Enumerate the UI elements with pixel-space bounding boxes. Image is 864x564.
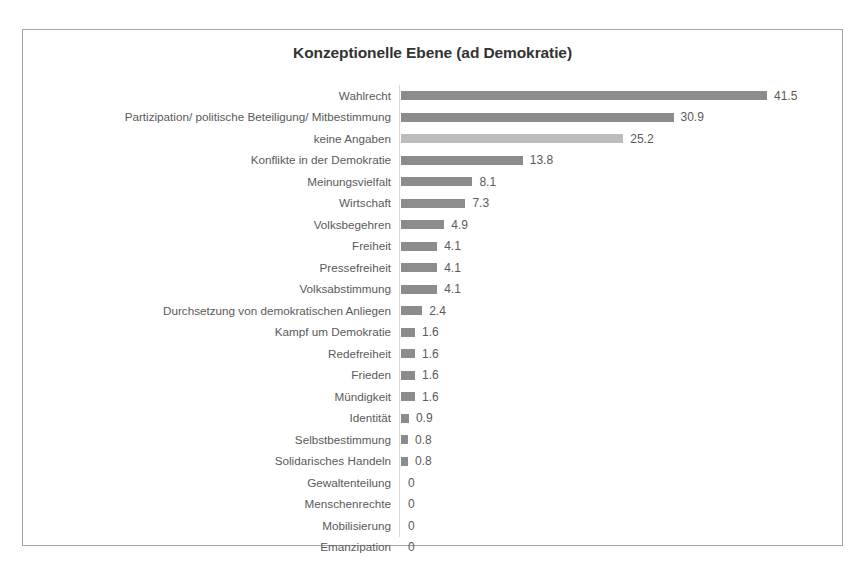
bar-value-label: 7.3: [472, 197, 489, 209]
bar-track: 41.5: [401, 85, 797, 107]
bar-track: 13.8: [401, 150, 553, 172]
category-label: Gewaltenteilung: [23, 477, 391, 489]
bar-track: 0: [401, 515, 415, 537]
bar: [401, 349, 415, 358]
bar-value-label: 4.1: [444, 240, 461, 252]
bar-track: 0: [401, 472, 415, 494]
bar-row: Redefreiheit1.6: [23, 343, 844, 365]
category-label: Menschenrechte: [23, 498, 391, 510]
bar-track: 30.9: [401, 107, 704, 129]
category-label: Solidarisches Handeln: [23, 455, 391, 467]
category-label: Frieden: [23, 369, 391, 381]
bar-track: 4.9: [401, 214, 468, 236]
bar-track: 0.8: [401, 451, 432, 473]
bar-track: 1.6: [401, 343, 439, 365]
category-label: Emanzipation: [23, 541, 391, 553]
bar: [401, 91, 767, 100]
bar-value-label: 2.4: [429, 305, 446, 317]
bar: [401, 435, 408, 444]
bar-value-label: 0.8: [415, 455, 432, 467]
category-label: Durchsetzung von demokratischen Anliegen: [23, 305, 391, 317]
category-label: Konflikte in der Demokratie: [23, 154, 391, 166]
bar-row: Identität0.9: [23, 408, 844, 430]
category-label: Selbstbestimmung: [23, 434, 391, 446]
category-label: Wirtschaft: [23, 197, 391, 209]
category-label: Freiheit: [23, 240, 391, 252]
bar-row: Partizipation/ politische Beteiligung/ M…: [23, 107, 844, 129]
bar: [401, 285, 437, 294]
bar-track: 8.1: [401, 171, 496, 193]
category-label: keine Angaben: [23, 133, 391, 145]
chart-title: Konzeptionelle Ebene (ad Demokratie): [23, 44, 842, 62]
category-label: Partizipation/ politische Beteiligung/ M…: [23, 111, 391, 123]
bar-row: Meinungsvielfalt8.1: [23, 171, 844, 193]
bar-track: 4.1: [401, 257, 461, 279]
bar-track: 4.1: [401, 236, 461, 258]
bar-track: 0.9: [401, 408, 433, 430]
bar: [401, 156, 523, 165]
category-label: Identität: [23, 412, 391, 424]
bar-row: Volksbegehren4.9: [23, 214, 844, 236]
bar-row: Pressefreiheit4.1: [23, 257, 844, 279]
bar-value-label: 25.2: [630, 133, 653, 145]
bar-row: Menschenrechte0: [23, 494, 844, 516]
category-label: Kampf um Demokratie: [23, 326, 391, 338]
bar-row: Wirtschaft7.3: [23, 193, 844, 215]
bar-value-label: 0: [408, 541, 415, 553]
bar-row: Wahlrecht41.5: [23, 85, 844, 107]
category-label: Wahlrecht: [23, 90, 391, 102]
chart-frame: Konzeptionelle Ebene (ad Demokratie) Wah…: [22, 29, 843, 546]
bar: [401, 177, 472, 186]
bar-value-label: 0: [408, 477, 415, 489]
bar-value-label: 30.9: [681, 111, 704, 123]
bar-row: Solidarisches Handeln0.8: [23, 451, 844, 473]
bar-value-label: 13.8: [530, 154, 553, 166]
bar-row: Frieden1.6: [23, 365, 844, 387]
bar-track: 2.4: [401, 300, 446, 322]
bar-value-label: 0: [408, 498, 415, 510]
bar: [401, 113, 674, 122]
bar-value-label: 8.1: [479, 176, 496, 188]
bar-value-label: 1.6: [422, 391, 439, 403]
bar-value-label: 4.1: [444, 262, 461, 274]
bar: [401, 392, 415, 401]
bar-track: 0.8: [401, 429, 432, 451]
bar: [401, 457, 408, 466]
bar-row: Selbstbestimmung0.8: [23, 429, 844, 451]
category-label: Mobilisierung: [23, 520, 391, 532]
bar: [401, 199, 465, 208]
bar-value-label: 0.9: [416, 412, 433, 424]
bar-row: Freiheit4.1: [23, 236, 844, 258]
bar-track: 4.1: [401, 279, 461, 301]
plot-area: Wahlrecht41.5Partizipation/ politische B…: [23, 85, 844, 543]
bar-track: 0: [401, 494, 415, 516]
bar-row: Mündigkeit1.6: [23, 386, 844, 408]
bar: [401, 414, 409, 423]
category-label: Volksbegehren: [23, 219, 391, 231]
bar-row: Kampf um Demokratie1.6: [23, 322, 844, 344]
category-label: Mündigkeit: [23, 391, 391, 403]
bar-track: 0: [401, 537, 415, 559]
bar: [401, 263, 437, 272]
bar: [401, 306, 422, 315]
bar: [401, 134, 623, 143]
category-label: Redefreiheit: [23, 348, 391, 360]
bar-value-label: 1.6: [422, 348, 439, 360]
bar-value-label: 41.5: [774, 90, 797, 102]
bar-track: 1.6: [401, 365, 439, 387]
bar-row: keine Angaben25.2: [23, 128, 844, 150]
bar: [401, 371, 415, 380]
bar-track: 1.6: [401, 322, 439, 344]
bar-row: Durchsetzung von demokratischen Anliegen…: [23, 300, 844, 322]
bar-value-label: 0: [408, 520, 415, 532]
category-label: Meinungsvielfalt: [23, 176, 391, 188]
bar: [401, 242, 437, 251]
bar-value-label: 4.9: [451, 219, 468, 231]
bar-track: 7.3: [401, 193, 489, 215]
bar-value-label: 1.6: [422, 326, 439, 338]
bar-value-label: 1.6: [422, 369, 439, 381]
bar-row: Konflikte in der Demokratie13.8: [23, 150, 844, 172]
bar-row: Gewaltenteilung0: [23, 472, 844, 494]
category-label: Pressefreiheit: [23, 262, 391, 274]
bar-value-label: 0.8: [415, 434, 432, 446]
